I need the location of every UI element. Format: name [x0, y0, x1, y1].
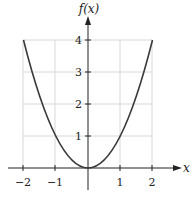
y-axis-label: f(x) — [78, 2, 100, 16]
x-tick-label: −1 — [47, 176, 63, 189]
y-axis — [85, 22, 91, 190]
y-tick-label: 4 — [75, 34, 82, 47]
parabola-chart: −2 −1 1 2 1 2 3 4 x f(x) — [0, 0, 192, 202]
x-axis-arrow-icon — [173, 165, 182, 171]
x-axis-label: x — [183, 161, 190, 175]
y-tick-label: 3 — [75, 66, 82, 79]
x-tick-label: 1 — [117, 176, 124, 189]
y-axis-arrow-icon — [85, 16, 91, 25]
y-tick-label: 1 — [75, 130, 82, 143]
y-tick-label: 2 — [75, 98, 82, 111]
x-tick-label: 2 — [149, 176, 156, 189]
x-tick-label: −2 — [15, 176, 31, 189]
